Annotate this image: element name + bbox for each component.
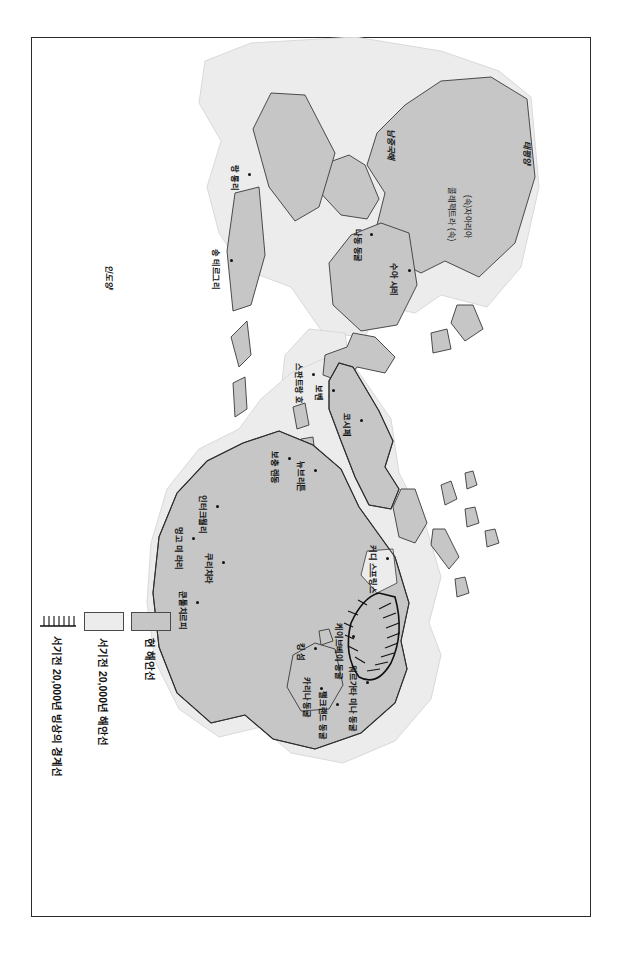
- legend-swatch-lgm-ice-boundary: [39, 612, 77, 629]
- ocean-label-indian-ocean: 인도양: [104, 265, 113, 288]
- legend-item-present-coastline: 현 해안선: [131, 612, 171, 777]
- site-label-lang-rongrien: 랑 롱리: [229, 165, 237, 190]
- site-label-spantrang-lake: 스판트랑 호: [293, 363, 301, 404]
- land-small-isle-b: [455, 577, 469, 597]
- map-graphic: [31, 37, 591, 917]
- site-label-interkwolli: 인터크월리: [197, 495, 205, 534]
- site-label-warreen-mina-cave: 워르가타 미나 동굴: [347, 665, 355, 732]
- land-lesser-sunda-b: [233, 377, 247, 417]
- land-admiralty-b: [465, 507, 479, 527]
- site-label-falkland-cave: 팰크랜드 동굴: [317, 691, 325, 740]
- legend-swatch-lgm-coastline: [84, 612, 124, 631]
- ocean-label-pacific: 태평양: [522, 141, 531, 164]
- site-label-boven: 보벤: [313, 385, 321, 401]
- map-figure: 태평양 남중국해 인도양 (속)자아리아 콜레펙트라 (속) 수아 시레 나동 …: [31, 37, 591, 917]
- site-label-bochung-rendong: 보충 렌동: [269, 451, 277, 484]
- land-philippines-b: [431, 329, 451, 353]
- legend-item-lgm-ice-boundary: 서기전 20,000년 빙상의 경계선: [39, 612, 77, 777]
- land-bismarck-isle: [465, 471, 477, 489]
- land-lesser-sunda-a: [231, 321, 251, 367]
- site-label-kurichira: 쿠리치라: [203, 553, 211, 584]
- figure-page: 태평양 남중국해 인도양 (속)자아리아 콜레펙트라 (속) 수아 시레 나동 …: [0, 0, 621, 954]
- site-label-cave-bay-cave: 케이브베이 동굴: [333, 623, 341, 680]
- region-label-a: (속)자아리아: [462, 195, 470, 239]
- ocean-label-south-china-sea: 남중국해: [386, 129, 395, 160]
- legend-label-lgm-ice-boundary: 서기전 20,000년 빙상의 경계선: [50, 636, 65, 777]
- site-label-cuddie-springs: 커디 스프링스: [367, 545, 375, 594]
- site-label-new-britain: 뉴브리튼: [295, 461, 303, 492]
- site-label-kuntulchirpi: 쿤툴치르피: [177, 591, 185, 630]
- legend-label-lgm-coastline: 서기전 20,000년 해안선: [96, 638, 111, 746]
- site-label-kosipe: 코시페: [341, 413, 349, 436]
- site-label-king-island: 킹 섬: [295, 643, 303, 661]
- legend-label-present-coastline: 현 해안선: [143, 638, 158, 681]
- site-label-sua-sire: 수아 시레: [388, 263, 396, 296]
- ice-boundary-icon: [39, 612, 77, 629]
- site-label-mungo-milari: 멍고 미 라리: [173, 527, 181, 570]
- legend-item-lgm-coastline: 서기전 20,000년 해안선: [84, 612, 124, 777]
- rotation-wrapper: 태평양 남중국해 인도양 (속)자아리아 콜레펙트라 (속) 수아 시레 나동 …: [0, 0, 621, 954]
- site-label-karina-cave: 카리나 동굴: [301, 677, 309, 718]
- land-admiralty-a: [441, 481, 457, 505]
- legend-swatch-present-coastline: [131, 612, 171, 631]
- land-philippines-a: [451, 305, 483, 341]
- land-small-isle-a: [485, 529, 499, 547]
- region-label-b: 콜레펙트라 (속): [446, 187, 454, 241]
- map-legend: 현 해안선 서기전 20,000년 해안선: [32, 612, 171, 777]
- site-label-nadong-cave: 나동 동굴: [352, 229, 360, 262]
- site-label-song-terus: 송 테르그리: [210, 249, 218, 290]
